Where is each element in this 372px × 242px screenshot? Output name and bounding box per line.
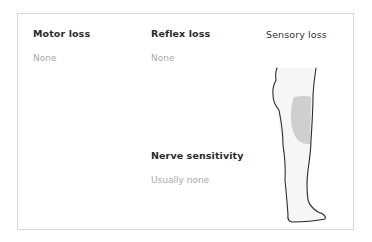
leg-sensory-map-icon [262,62,342,232]
motor-loss-title: Motor loss [33,28,90,39]
reflex-loss-value: None [151,53,174,63]
nerve-sensitivity-title: Nerve sensitivity [151,150,243,161]
nerve-sensitivity-value: Usually none [151,175,209,185]
motor-loss-value: None [33,53,56,63]
sensory-loss-title: Sensory loss [266,29,327,40]
reflex-loss-title: Reflex loss [151,28,210,39]
